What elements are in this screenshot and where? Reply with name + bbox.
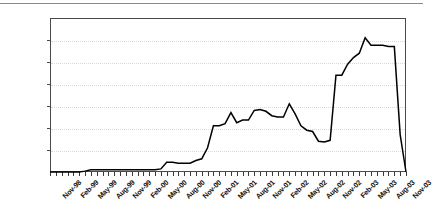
x-axis-tick-mark <box>266 172 267 176</box>
x-axis-tick-mark <box>108 172 109 176</box>
x-axis-tick-mark <box>260 172 261 176</box>
x-axis-tick-mark <box>225 172 226 176</box>
x-axis-tick-mark <box>243 172 244 176</box>
x-axis-tick-label: May-99 <box>96 178 119 201</box>
x-axis-tick-label: May-00 <box>166 178 189 201</box>
x-axis-tick-mark <box>213 172 214 176</box>
x-axis-tick-label: Nov-98 <box>61 178 83 200</box>
x-axis-tick-mark <box>167 172 168 176</box>
x-axis-tick-mark <box>56 172 57 176</box>
y-axis-tick-mark <box>47 128 51 129</box>
x-axis-tick-label: Aug-00 <box>183 178 206 201</box>
x-axis-tick-mark <box>132 172 133 176</box>
x-axis-tick-mark <box>365 172 366 176</box>
x-axis-tick-label: May-03 <box>376 178 399 201</box>
x-axis-tick-mark <box>254 172 255 176</box>
x-axis-tick-mark <box>114 172 115 176</box>
x-axis-tick-mark <box>289 172 290 176</box>
x-axis-tick-mark <box>161 172 162 176</box>
x-axis-tick-mark <box>406 172 407 176</box>
x-axis-tick-mark <box>79 172 80 176</box>
x-axis-tick-mark <box>295 172 296 176</box>
x-axis-tick-mark <box>97 172 98 176</box>
y-axis-tick-mark <box>47 106 51 107</box>
gridline <box>51 63 405 64</box>
x-axis-tick-mark <box>190 172 191 176</box>
x-axis-tick-mark <box>307 172 308 176</box>
x-axis-tick-mark <box>184 172 185 176</box>
x-axis-tick-mark <box>178 172 179 176</box>
x-axis-tick-mark <box>50 172 51 176</box>
x-axis-tick-mark <box>202 172 203 176</box>
x-axis-tick-mark <box>388 172 389 176</box>
x-axis-tick-mark <box>324 172 325 176</box>
x-axis-tick-mark <box>400 172 401 176</box>
gridline <box>51 129 405 130</box>
x-axis-tick-label: May-02 <box>306 178 329 201</box>
x-axis-tick-mark <box>91 172 92 176</box>
x-axis-tick-mark <box>196 172 197 176</box>
x-axis-tick-mark <box>336 172 337 176</box>
gridline <box>51 107 405 108</box>
x-axis-tick-mark <box>155 172 156 176</box>
x-axis-tick-mark <box>149 172 150 176</box>
y-axis-tick-mark <box>47 62 51 63</box>
x-axis-tick-label: Aug-02 <box>323 178 346 201</box>
x-axis-tick-mark <box>278 172 279 176</box>
x-axis-tick-mark <box>301 172 302 176</box>
y-axis-tick-mark <box>47 84 51 85</box>
x-axis-tick-mark <box>120 172 121 176</box>
x-axis-tick-mark <box>353 172 354 176</box>
x-axis-tick-mark <box>62 172 63 176</box>
x-axis-tick-mark <box>394 172 395 176</box>
x-axis-tick-mark <box>283 172 284 176</box>
plot-area <box>50 18 406 172</box>
x-axis-tick-mark <box>73 172 74 176</box>
x-axis-tick-mark <box>371 172 372 176</box>
x-axis-tick-mark <box>68 172 69 176</box>
x-axis-tick-mark <box>313 172 314 176</box>
x-axis-tick-mark <box>248 172 249 176</box>
x-axis-tick-label: Aug-99 <box>113 178 136 201</box>
x-axis-tick-mark <box>359 172 360 176</box>
x-axis-tick-mark <box>85 172 86 176</box>
x-axis-tick-mark <box>237 172 238 176</box>
x-axis-tick-mark <box>342 172 343 176</box>
x-axis-tick-label: Aug-03 <box>393 178 416 201</box>
x-axis-tick-mark <box>126 172 127 176</box>
x-axis-tick-mark <box>208 172 209 176</box>
gridline <box>51 85 405 86</box>
y-axis-tick-mark <box>47 40 51 41</box>
x-axis-tick-mark <box>330 172 331 176</box>
gridline <box>51 41 405 42</box>
x-axis-tick-mark <box>138 172 139 176</box>
gridline <box>51 151 405 152</box>
x-axis-tick-mark <box>173 172 174 176</box>
x-axis-tick-mark <box>383 172 384 176</box>
x-axis-tick-mark <box>231 172 232 176</box>
x-axis-tick-label: Aug-01 <box>253 178 276 201</box>
x-axis-tick-mark <box>272 172 273 176</box>
y-axis-tick-mark <box>47 150 51 151</box>
x-axis-tick-mark <box>377 172 378 176</box>
x-axis-tick-label: May-01 <box>236 178 259 201</box>
x-axis-tick-mark <box>318 172 319 176</box>
x-axis-tick-mark <box>348 172 349 176</box>
x-axis-tick-mark <box>143 172 144 176</box>
top-divider-rule <box>0 3 423 4</box>
x-axis-tick-mark <box>103 172 104 176</box>
x-axis-tick-mark <box>219 172 220 176</box>
